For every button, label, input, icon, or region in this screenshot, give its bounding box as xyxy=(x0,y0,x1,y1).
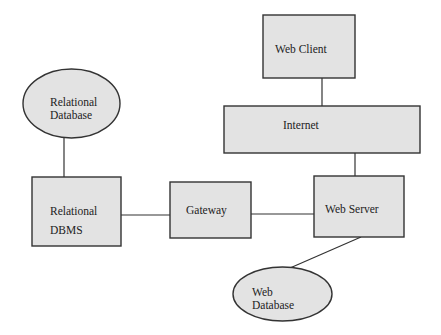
node-label-line: Internet xyxy=(283,119,320,131)
edge-web-server-to-web-database xyxy=(290,237,361,268)
node-label-line: Relational xyxy=(50,205,97,217)
node-internet: Internet xyxy=(224,106,420,153)
node-web-database: Web Database xyxy=(233,267,332,321)
architecture-diagram: Relational Database Relational DBMS Gate… xyxy=(0,0,441,335)
node-relational-database: Relational Database xyxy=(23,69,120,138)
ellipse-shape xyxy=(233,267,332,321)
node-label-line: Relational xyxy=(50,96,97,108)
rect-shape xyxy=(224,106,420,153)
node-label-line: Web Client xyxy=(275,43,328,55)
node-web-server: Web Server xyxy=(314,176,404,237)
node-web-client: Web Client xyxy=(263,15,355,78)
node-label-line: Web xyxy=(252,286,273,298)
node-label-line: DBMS xyxy=(50,224,83,236)
node-gateway: Gateway xyxy=(170,182,251,238)
node-label-line: Database xyxy=(50,109,92,121)
node-label-line: Gateway xyxy=(186,204,227,217)
node-relational-dbms: Relational DBMS xyxy=(32,177,121,246)
node-label-line: Web Server xyxy=(325,203,379,215)
node-label-line: Database xyxy=(252,299,294,311)
